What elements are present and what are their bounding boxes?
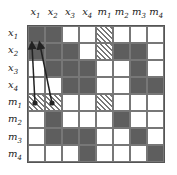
arrow-overlay — [0, 0, 177, 175]
dot-icon — [49, 100, 54, 105]
dot-icon — [32, 100, 37, 105]
arrow-x2 — [40, 45, 55, 106]
arrow-x1 — [32, 45, 38, 106]
